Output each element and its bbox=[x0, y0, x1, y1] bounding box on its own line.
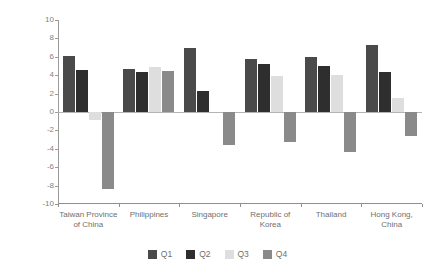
bar-q3 bbox=[271, 76, 283, 112]
bar-group bbox=[179, 20, 240, 204]
y-axis-tick-label: 4 bbox=[32, 71, 54, 79]
x-axis-category-label: Philippines bbox=[119, 210, 180, 220]
x-axis-group-divider bbox=[179, 204, 180, 207]
bar-q4 bbox=[344, 112, 356, 152]
bar-q1 bbox=[245, 59, 257, 112]
bar-q1 bbox=[366, 45, 378, 112]
y-axis-tick-label: -10 bbox=[32, 200, 54, 208]
legend-swatch-q3 bbox=[225, 250, 234, 259]
bar-q4 bbox=[162, 71, 174, 112]
x-axis-group-divider bbox=[240, 204, 241, 207]
bar-q2 bbox=[258, 64, 270, 112]
y-axis-tick-label: 10 bbox=[32, 16, 54, 24]
x-axis-group-divider bbox=[58, 204, 59, 207]
x-axis-group-divider bbox=[119, 204, 120, 207]
bar-q4 bbox=[223, 112, 235, 145]
legend-entry[interactable]: Q1 bbox=[148, 250, 172, 259]
bar-q2 bbox=[379, 72, 391, 112]
bar-q2 bbox=[76, 70, 88, 112]
bar-group bbox=[301, 20, 362, 204]
legend-entry[interactable]: Q3 bbox=[225, 250, 249, 259]
y-axis-tick-label: -4 bbox=[32, 145, 54, 153]
x-axis-group-divider bbox=[301, 204, 302, 207]
y-axis-tick-label: -2 bbox=[32, 126, 54, 134]
bar-q1 bbox=[184, 48, 196, 112]
bar-chart: Per cent (y-o-y) 1086420-2-4-6-8-10 Taiw… bbox=[0, 0, 435, 280]
legend-swatch-q2 bbox=[186, 250, 195, 259]
y-axis-tick-label: 6 bbox=[32, 53, 54, 61]
bar-q3 bbox=[331, 75, 343, 112]
legend-entry[interactable]: Q2 bbox=[186, 250, 210, 259]
bar-q2 bbox=[197, 91, 209, 112]
bar-q2 bbox=[318, 66, 330, 112]
legend-label: Q2 bbox=[199, 250, 210, 259]
legend-label: Q3 bbox=[238, 250, 249, 259]
chart-legend: Q1Q2Q3Q4 bbox=[0, 250, 435, 259]
bar-q1 bbox=[305, 57, 317, 112]
bar-q3 bbox=[392, 98, 404, 112]
bar-group bbox=[240, 20, 301, 204]
bar-q3 bbox=[149, 67, 161, 112]
plot-area: 1086420-2-4-6-8-10 Taiwan Province of Ch… bbox=[58, 20, 422, 204]
bar-q1 bbox=[123, 69, 135, 112]
y-axis-tick-label: -8 bbox=[32, 182, 54, 190]
legend-label: Q1 bbox=[161, 250, 172, 259]
legend-label: Q4 bbox=[276, 250, 287, 259]
bar-q1 bbox=[63, 56, 75, 112]
bar-q4 bbox=[405, 112, 417, 136]
bar-q3 bbox=[89, 112, 101, 120]
bar-q2 bbox=[136, 72, 148, 112]
y-axis-title: Per cent (y-o-y) bbox=[8, 0, 22, 28]
x-axis-category-label: Hong Kong, China bbox=[361, 210, 422, 229]
bar-q4 bbox=[284, 112, 296, 142]
legend-swatch-q1 bbox=[148, 250, 157, 259]
y-axis-tick-label: -6 bbox=[32, 163, 54, 171]
x-axis-group-divider bbox=[422, 204, 423, 207]
x-axis-category-label: Singapore bbox=[179, 210, 240, 220]
legend-entry[interactable]: Q4 bbox=[263, 250, 287, 259]
y-axis-tick-label: 2 bbox=[32, 90, 54, 98]
x-axis-category-label: Taiwan Province of China bbox=[58, 210, 119, 229]
x-axis-category-label: Republic of Korea bbox=[240, 210, 301, 229]
x-axis-group-divider bbox=[361, 204, 362, 207]
legend-swatch-q4 bbox=[263, 250, 272, 259]
bar-group bbox=[58, 20, 119, 204]
bar-group bbox=[361, 20, 422, 204]
bar-group bbox=[119, 20, 180, 204]
bar-q4 bbox=[102, 112, 114, 189]
x-axis-category-label: Thailand bbox=[301, 210, 362, 220]
y-axis-tick-label: 0 bbox=[32, 108, 54, 116]
y-axis-tick-label: 8 bbox=[32, 34, 54, 42]
